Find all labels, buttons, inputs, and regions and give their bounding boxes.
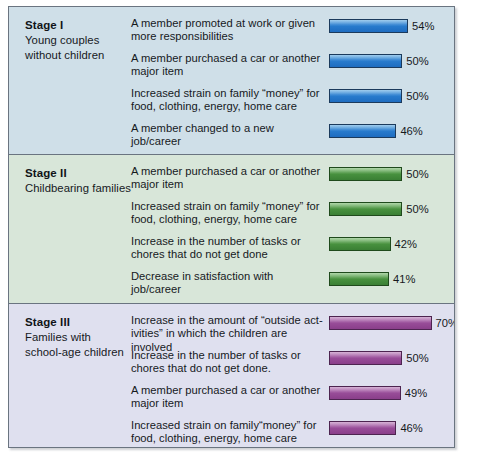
bar-value-label: 50% [406,90,428,102]
chart-row: A member promoted at work or given more … [131,16,454,51]
row-bar-wrap: 50% [329,51,454,68]
row-bar-wrap: 50% [329,86,454,103]
bar-value-label: 46% [400,422,422,434]
row-bar-wrap: 50% [329,348,455,365]
chart-row: Increased strain on family “money” for f… [131,199,454,234]
row-bar-wrap: 50% [329,199,454,216]
row-label-line1: Increase in the amount of “outside act- [131,314,329,327]
row-bar-wrap: 50% [329,164,454,181]
row-label-line1: A member purchased a car or another [131,165,329,178]
row-label-line1: A member purchased a car or another [131,384,329,397]
stage-rows-3: Increase in the amount of “outside act- … [131,304,455,447]
stage-title-3: Stage III [25,315,131,329]
bar [329,351,402,365]
row-label: Increased strain on family “money” for f… [131,199,329,227]
row-label: A member changed to a new job/career [131,121,329,149]
bar [329,421,396,435]
row-bar-wrap: 46% [329,418,455,435]
stage-rows-2: A member purchased a car or another majo… [131,155,454,303]
bar [329,89,402,103]
stage-section-1: Stage I Young couples without children A… [9,7,454,155]
row-label-line1: Increased strain on family“money” for [131,419,329,432]
row-label-line1: Increased strain on family “money” for [131,87,329,100]
row-label: A member purchased a car or another majo… [131,51,329,79]
row-label: A member promoted at work or given more … [131,16,329,44]
row-label-line1: Increased strain on family “money” for [131,200,329,213]
row-label-line1: A member purchased a car or another [131,52,329,65]
row-label-line2: food, clothing, energy, home care [131,213,329,226]
row-bar-wrap: 54% [329,16,454,33]
row-label-line1: Decrease in satisfaction with [131,270,329,283]
bar [329,124,396,138]
row-bar-wrap: 49% [329,383,455,400]
stage-subtitle-2-line1: Childbearing families [25,181,131,195]
bar-value-label: 49% [405,387,427,399]
row-label-line2: job/career [131,135,329,148]
stage-rows-1: A member promoted at work or given more … [131,7,454,154]
bar-value-label: 46% [400,125,422,137]
row-label-line2: chores that do not get done. [131,362,329,375]
row-label-line2: more responsibilities [131,30,329,43]
chart-row: Decrease in satisfaction with job/career… [131,269,454,304]
bar-value-label: 42% [395,238,417,250]
chart-row: Increase in the number of tasks or chore… [131,234,454,269]
chart-row: A member purchased a car or another majo… [131,164,454,199]
bar [329,202,402,216]
row-label-line2: job/career [131,283,329,296]
chart-row: A member purchased a car or another majo… [131,383,455,418]
row-label: Increase in the number of tasks or chore… [131,234,329,262]
bar-value-label: 50% [406,55,428,67]
family-stress-chart-figure: Stage I Young couples without children A… [8,6,455,448]
chart-row: Increase in the amount of “outside act- … [131,313,455,348]
bar-value-label: 70% [436,317,455,329]
bar-value-label: 54% [412,20,434,32]
bar-value-label: 41% [393,273,415,285]
chart-row: Increase in the number of tasks or chore… [131,348,455,383]
stage-section-3: Stage III Families with school-age child… [9,304,454,447]
row-label-line2: major item [131,178,329,191]
row-label-line1: Increase in the number of tasks or [131,235,329,248]
row-label-line1: A member promoted at work or given [131,17,329,30]
bar [329,19,408,33]
row-label-line2: chores that do not get done [131,248,329,261]
chart-row: A member changed to a new job/career 46% [131,121,454,156]
stage-title-2: Stage II [25,166,131,180]
stage-subtitle-1-line2: without children [25,48,131,62]
row-bar-wrap: 42% [329,234,454,251]
bar [329,167,402,181]
row-label-line2: major item [131,397,329,410]
row-bar-wrap: 41% [329,269,454,286]
row-label-line1: A member changed to a new [131,122,329,135]
bar [329,54,402,68]
chart-row: A member purchased a car or another majo… [131,51,454,86]
row-label: A member purchased a car or another majo… [131,164,329,192]
bar [329,272,389,286]
bar [329,386,401,400]
bar [329,237,391,251]
row-label-line2: food, clothing, energy, home care [131,432,329,445]
bar-value-label: 50% [406,352,428,364]
row-bar-wrap: 46% [329,121,454,138]
row-label: Decrease in satisfaction with job/career [131,269,329,297]
row-label: Increased strain on family“money” for fo… [131,418,329,446]
stage-section-2: Stage II Childbearing families A member … [9,155,454,304]
chart-row: Increased strain on family “money” for f… [131,86,454,121]
stage-subtitle-3-line2: school-age children [25,345,131,359]
row-label-line2: major item [131,65,329,78]
stage-title-1: Stage I [25,18,131,32]
bar [329,316,432,330]
bar-value-label: 50% [406,203,428,215]
row-label-line2: food, clothing, energy, home care [131,100,329,113]
stage-label-2: Stage II Childbearing families [9,155,131,303]
row-label: A member purchased a car or another majo… [131,383,329,411]
bar-value-label: 50% [406,168,428,180]
chart-row: Increased strain on family“money” for fo… [131,418,455,448]
row-label: Increase in the number of tasks or chore… [131,348,329,376]
stage-label-1: Stage I Young couples without children [9,7,131,154]
stage-subtitle-3-line1: Families with [25,330,131,344]
stage-subtitle-1-line1: Young couples [25,33,131,47]
row-label: Increased strain on family “money” for f… [131,86,329,114]
row-label-line1: Increase in the number of tasks or [131,349,329,362]
stage-label-3: Stage III Families with school-age child… [9,304,131,447]
row-bar-wrap: 70% [329,313,455,330]
